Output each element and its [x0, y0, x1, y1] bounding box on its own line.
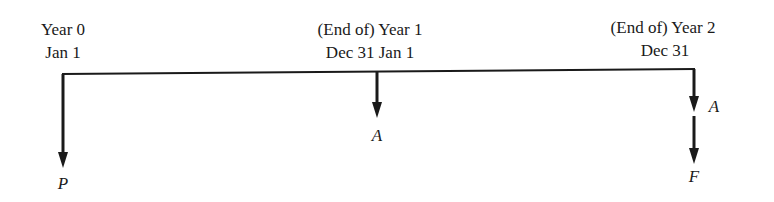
- arrowhead-icon: [372, 102, 382, 118]
- year2-date: Dec 31: [641, 41, 690, 60]
- present-value-label: P: [58, 174, 68, 193]
- annuity-label-year2: A: [709, 97, 719, 116]
- year1-date: Dec 31 Jan 1: [326, 43, 414, 62]
- year0-date: Jan 1: [45, 43, 80, 62]
- year0-label: Year 0: [41, 20, 85, 39]
- future-value-label: F: [689, 167, 699, 186]
- arrowhead-icon: [689, 148, 699, 164]
- arrowhead-icon: [58, 152, 68, 168]
- arrowhead-icon: [689, 96, 699, 112]
- year1-label: (End of) Year 1: [318, 20, 423, 39]
- annuity-label-year1: A: [372, 126, 382, 145]
- year2-label: (End of) Year 2: [611, 18, 716, 37]
